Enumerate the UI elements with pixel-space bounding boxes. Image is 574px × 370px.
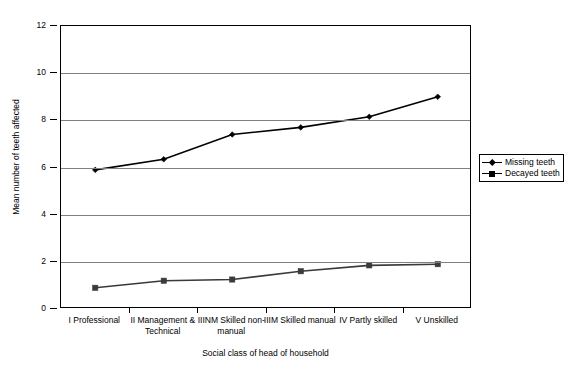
data-point-square bbox=[298, 269, 303, 274]
x-axis bbox=[60, 308, 471, 314]
y-axis-tick-mark bbox=[50, 308, 57, 309]
data-point-square bbox=[93, 285, 98, 290]
legend: Missing teeth Decayed teeth bbox=[479, 154, 564, 182]
x-axis-tick-mark bbox=[197, 308, 198, 313]
legend-marker-diamond-icon bbox=[482, 157, 502, 168]
y-axis-tick-mark bbox=[50, 119, 57, 120]
data-point-diamond bbox=[435, 94, 441, 100]
x-axis-tick-mark bbox=[266, 308, 267, 313]
data-point-diamond bbox=[161, 156, 167, 162]
x-axis-category-label: I Professional bbox=[56, 315, 133, 326]
y-axis-tick-mark bbox=[50, 72, 57, 73]
legend-item-label: Decayed teeth bbox=[505, 168, 560, 179]
x-axis-tick-mark bbox=[129, 308, 130, 313]
x-axis-category-label: IV Partly skilled bbox=[330, 315, 407, 326]
y-axis-tick-label: 12 bbox=[37, 21, 46, 30]
y-axis-tick-label: 0 bbox=[41, 304, 46, 313]
x-axis-category-label: II Management & Technical bbox=[125, 315, 202, 337]
gridline bbox=[61, 120, 470, 121]
x-axis-category-label: IIIM Skilled manual bbox=[262, 315, 339, 326]
plot-area bbox=[60, 25, 471, 308]
legend-marker-square-icon bbox=[482, 168, 502, 179]
data-point-diamond bbox=[298, 125, 304, 131]
y-axis-tick-label: 4 bbox=[41, 209, 46, 218]
data-point-diamond bbox=[229, 132, 235, 138]
series-line bbox=[95, 97, 438, 170]
y-axis-tick-label: 6 bbox=[41, 162, 46, 171]
data-point-square bbox=[161, 278, 166, 283]
gridline bbox=[61, 215, 470, 216]
x-axis-tick-mark bbox=[403, 308, 404, 313]
gridline bbox=[61, 168, 470, 169]
x-axis-category-label: IIINM Skilled non-manual bbox=[193, 315, 270, 337]
y-axis-tick-mark bbox=[50, 214, 57, 215]
y-axis-tick-mark bbox=[50, 25, 57, 26]
x-axis-title: Social class of head of household bbox=[60, 348, 471, 358]
y-axis-tick-mark bbox=[50, 261, 57, 262]
y-axis: 024681012 bbox=[0, 0, 60, 370]
legend-item[interactable]: Missing teeth bbox=[482, 157, 560, 168]
x-axis-tick-labels: I ProfessionalII Management & TechnicalI… bbox=[60, 315, 471, 345]
legend-item[interactable]: Decayed teeth bbox=[482, 168, 560, 179]
legend-item-label: Missing teeth bbox=[505, 157, 555, 168]
y-axis-tick-label: 8 bbox=[41, 115, 46, 124]
data-point-square bbox=[230, 277, 235, 282]
gridline bbox=[61, 73, 470, 74]
y-axis-tick-label: 10 bbox=[37, 68, 46, 77]
y-axis-tick-mark bbox=[50, 167, 57, 168]
chart-container: Mean number of teeth affected 024681012 … bbox=[0, 0, 574, 370]
data-point-diamond bbox=[366, 114, 372, 120]
data-point-square bbox=[367, 263, 372, 268]
gridline bbox=[61, 262, 470, 263]
x-axis-tick-mark bbox=[334, 308, 335, 313]
series-line bbox=[95, 264, 438, 288]
y-axis-tick-label: 2 bbox=[41, 256, 46, 265]
x-axis-category-label: V Unskilled bbox=[399, 315, 476, 326]
